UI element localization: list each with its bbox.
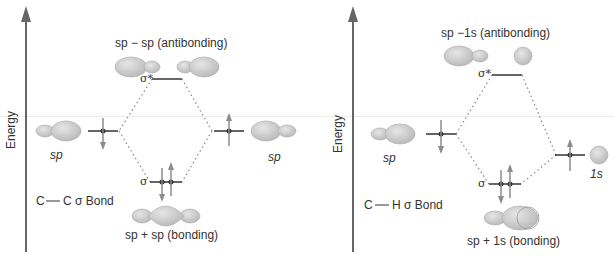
- right-sp-level: [214, 113, 244, 146]
- right-sigma-level: [489, 164, 521, 204]
- left-correlation-lines: [119, 79, 212, 182]
- mo-diagram-figure: Energy sp − sp (antibonding) σ* sp sp σ …: [0, 0, 614, 262]
- right-bond-atom-a: C: [364, 198, 373, 212]
- right-sigma-star-symbol: σ*: [478, 67, 491, 80]
- left-bonding-label: sp + sp (bonding): [125, 228, 218, 242]
- right-1s-label: 1s: [590, 167, 603, 181]
- right-bonding-label: sp + 1s (bonding): [467, 234, 560, 248]
- left-sp-orbital-icon: [36, 121, 81, 141]
- left-sp-level: [88, 118, 118, 150]
- left-energy-axis: [21, 6, 31, 252]
- right-bond-label: H σ Bond: [392, 198, 443, 212]
- left-antibonding-orbital-icon: [115, 57, 219, 77]
- right-energy-axis: [348, 6, 358, 252]
- left-sp-label: sp: [50, 148, 63, 162]
- left-bond-label: C σ Bond: [63, 194, 114, 208]
- left-bonding-orbital-icon: [132, 206, 200, 226]
- left-sigma-star-symbol: σ*: [140, 72, 153, 85]
- right-antibonding-orbital-icon: [444, 46, 532, 66]
- right-bonding-orbital-icon: [484, 206, 539, 230]
- left-antibonding-label: sp − sp (antibonding): [115, 36, 227, 50]
- right-antibonding-label: sp −1s (antibonding): [441, 26, 550, 40]
- left-axis-label: Energy: [4, 111, 18, 149]
- left-bond-atom-a: C: [36, 194, 45, 208]
- right-sp-orbital-icon: [251, 121, 296, 141]
- right-sp-atomic-level: [426, 120, 456, 154]
- right-1s-orbital-icon: [590, 146, 608, 164]
- right-axis-label: Energy: [331, 115, 345, 153]
- right-sp-label: sp: [383, 151, 396, 165]
- left-sigma-symbol: σ: [140, 175, 148, 188]
- right-sigma-symbol: σ: [478, 177, 486, 190]
- right-sp-label: sp: [268, 150, 281, 164]
- right-sp-orbital-icon: [371, 124, 415, 144]
- left-sigma-level: [150, 162, 182, 202]
- right-1s-level: [555, 139, 585, 171]
- right-correlation-lines: [456, 75, 556, 184]
